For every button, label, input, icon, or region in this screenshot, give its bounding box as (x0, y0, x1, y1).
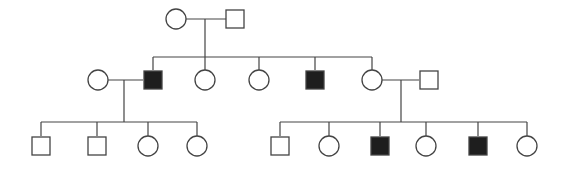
relationship-lines (41, 19, 527, 136)
unaffected-female-ii-6 (362, 70, 382, 90)
unaffected-female-iii-6 (319, 136, 339, 156)
unaffected-male-iii-5 (271, 137, 289, 155)
affected-male-ii-5 (306, 71, 324, 89)
unaffected-female-iii-4 (187, 136, 207, 156)
affected-male-iii-9 (469, 137, 487, 155)
affected-male-ii-2 (144, 71, 162, 89)
unaffected-female-ii-1 (88, 70, 108, 90)
unaffected-female-iii-3 (138, 136, 158, 156)
unaffected-female-i-1 (166, 9, 186, 29)
pedigree-chart (0, 0, 567, 171)
unaffected-male-iii-2 (88, 137, 106, 155)
affected-male-iii-7 (371, 137, 389, 155)
unaffected-female-ii-3 (195, 70, 215, 90)
unaffected-male-i-2 (226, 10, 244, 28)
family-members (32, 9, 537, 156)
unaffected-female-iii-8 (416, 136, 436, 156)
unaffected-female-iii-10 (517, 136, 537, 156)
unaffected-male-iii-1 (32, 137, 50, 155)
unaffected-female-ii-4 (249, 70, 269, 90)
unaffected-male-ii-7 (420, 71, 438, 89)
